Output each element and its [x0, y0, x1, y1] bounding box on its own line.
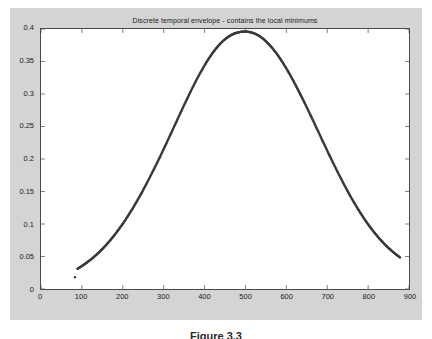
y-tick-label: 0.25	[19, 122, 34, 130]
x-tick-label: 200	[116, 293, 129, 301]
y-tick-label: 0.4	[24, 24, 34, 32]
x-tick-label: 700	[322, 293, 335, 301]
x-tick-label: 600	[280, 293, 293, 301]
plot-series-svg	[41, 29, 409, 289]
matlab-figure-canvas: Discrete temporal envelope - contains th…	[10, 8, 422, 320]
figure-wrapper: Discrete temporal envelope - contains th…	[0, 0, 432, 339]
x-tick-label: 300	[157, 293, 170, 301]
y-tick-label: 0	[30, 286, 34, 294]
x-tick-label: 0	[38, 293, 42, 301]
x-tick-label: 500	[239, 293, 252, 301]
y-tick-label: 0.1	[24, 221, 34, 229]
y-tick-label: 0.15	[19, 188, 34, 196]
plot-axes-box	[40, 28, 410, 290]
y-tick-label: 0.35	[19, 57, 34, 65]
axis-tick-marks	[41, 29, 409, 289]
y-tick-label: 0.05	[19, 253, 34, 261]
y-axis-tick-labels: 00.050.10.150.20.250.30.350.4	[10, 28, 37, 290]
envelope-data-points	[74, 30, 401, 278]
x-axis-tick-labels: 0100200300400500600700800900	[40, 293, 410, 305]
x-tick-label: 100	[75, 293, 88, 301]
chart-title: Discrete temporal envelope - contains th…	[40, 17, 410, 24]
x-tick-label: 400	[198, 293, 211, 301]
x-tick-label: 800	[363, 293, 376, 301]
figure-caption: Figure 3.3	[0, 330, 432, 339]
y-tick-label: 0.2	[24, 155, 34, 163]
x-tick-label: 900	[404, 293, 417, 301]
y-tick-label: 0.3	[24, 90, 34, 98]
